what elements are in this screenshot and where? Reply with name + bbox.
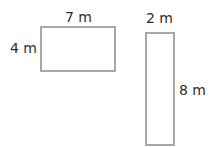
rectangle-a bbox=[40, 26, 116, 72]
rectangle-b-width-label: 2 m bbox=[146, 11, 173, 25]
rectangle-a-width-label: 7 m bbox=[65, 10, 92, 24]
rectangle-b-height-label: 8 m bbox=[179, 83, 206, 97]
rectangle-b bbox=[145, 32, 175, 146]
rectangle-a-height-label: 4 m bbox=[10, 41, 37, 55]
